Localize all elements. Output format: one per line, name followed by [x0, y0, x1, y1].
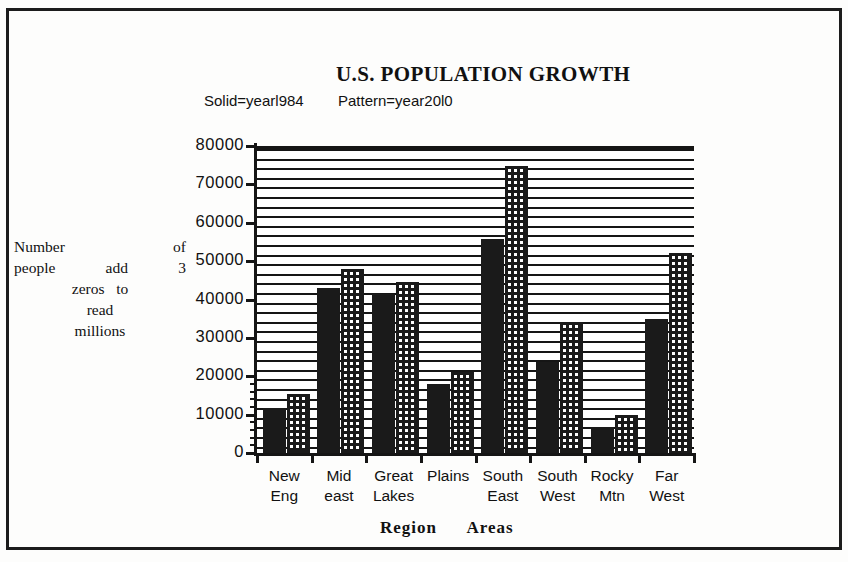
bar-pattern	[615, 415, 638, 453]
y-axis-tick	[246, 414, 257, 417]
y-axis-tick	[246, 260, 257, 263]
bar-solid	[481, 239, 504, 453]
bar-pattern	[341, 269, 364, 453]
bar-pattern	[287, 394, 310, 453]
chart-title: U.S. POPULATION GROWTH	[336, 62, 736, 87]
y-axis-tick	[246, 337, 257, 340]
y-axis-minor-tick	[250, 383, 257, 385]
y-axis-title-word-add: add	[106, 257, 128, 278]
y-axis-minor-tick	[250, 444, 257, 446]
x-axis-category-label: GreatLakes	[366, 466, 421, 506]
category-label-line-2: Mtn	[585, 486, 640, 506]
y-axis-title-word-to: to	[116, 280, 128, 297]
y-axis-tick-label: 20000	[172, 365, 244, 384]
bar-pattern	[396, 282, 419, 453]
category-label-line-1: Plains	[421, 466, 476, 486]
x-axis-category-label: RockyMtn	[585, 466, 640, 506]
y-axis-tick-label: 0	[172, 442, 244, 461]
category-label-line-1: Rocky	[585, 466, 640, 486]
x-axis-category-label: Plains	[421, 466, 476, 486]
x-axis-category-label: NewEng	[257, 466, 312, 506]
y-axis-title-word-number: Number	[14, 236, 65, 257]
x-axis-tick	[693, 453, 696, 463]
category-label-line-1: South	[530, 466, 585, 486]
x-axis-tick	[420, 453, 423, 463]
x-axis-tick	[256, 453, 259, 463]
bar-chart: U.S. POPULATION GROWTH Solid=yearl984 Pa…	[0, 0, 848, 562]
x-axis-category-label: SouthWest	[530, 466, 585, 506]
y-axis-title: Number of people add 3 zeros to read mil…	[14, 236, 186, 341]
y-axis-minor-tick	[250, 437, 257, 439]
x-axis-tick	[475, 453, 478, 463]
y-axis-tick	[246, 145, 257, 148]
y-axis-title-line-5: millions	[14, 320, 186, 341]
category-label-line-1: Mid	[312, 466, 367, 486]
x-axis-title: Region Areas	[380, 518, 514, 538]
y-axis-tick	[246, 299, 257, 302]
y-axis-tick-label: 50000	[172, 250, 244, 269]
x-axis-tick	[311, 453, 314, 463]
y-axis-title-line-2: people add 3	[14, 257, 186, 278]
y-axis-tick	[246, 183, 257, 186]
y-axis-title-line-3: zeros to	[14, 278, 186, 299]
bar-pattern	[669, 253, 692, 453]
bar-pattern	[451, 372, 474, 453]
y-axis-title-word-people: people	[14, 257, 55, 278]
bar-solid	[591, 427, 614, 453]
bar-solid	[263, 408, 286, 453]
y-axis-tick-labels: 0100002000030000400005000060000700008000…	[168, 0, 244, 562]
x-axis-tick	[638, 453, 641, 463]
x-axis-category-label: SouthEast	[476, 466, 531, 506]
scanned-page: U.S. POPULATION GROWTH Solid=yearl984 Pa…	[0, 0, 848, 562]
x-axis-category-labels: NewEngMideastGreatLakesPlainsSouthEastSo…	[257, 466, 694, 514]
category-label-line-2: East	[476, 486, 531, 506]
y-axis-tick-label: 40000	[172, 289, 244, 308]
bar-pattern	[505, 166, 528, 453]
category-label-line-1: South	[476, 466, 531, 486]
y-axis-tick-label: 80000	[172, 135, 244, 154]
y-axis-tick-label: 30000	[172, 327, 244, 346]
y-axis-tick-label: 70000	[172, 173, 244, 192]
bar-solid	[372, 294, 395, 453]
bar-solid	[427, 384, 450, 453]
y-axis-tick	[246, 375, 257, 378]
x-axis-category-label: FarWest	[639, 466, 694, 506]
bar-solid	[317, 288, 340, 453]
category-label-line-2: West	[639, 486, 694, 506]
x-axis-category-label: Mideast	[312, 466, 367, 506]
y-axis-minor-tick	[250, 398, 257, 400]
y-axis-tick-label: 60000	[172, 212, 244, 231]
y-axis-minor-tick	[250, 391, 257, 393]
y-axis-minor-tick	[250, 406, 257, 408]
x-axis-tick	[365, 453, 368, 463]
legend-pattern-label: Pattern=year20l0	[338, 92, 453, 109]
category-label-line-2: Lakes	[366, 486, 421, 506]
category-label-line-2: east	[312, 486, 367, 506]
category-label-line-2: West	[530, 486, 585, 506]
category-label-line-1: Great	[366, 466, 421, 486]
category-label-line-2: Eng	[257, 486, 312, 506]
y-axis-title-word-zeros: zeros	[72, 280, 105, 297]
category-label-line-1: Far	[639, 466, 694, 486]
x-axis-title-word-region: Region	[380, 518, 437, 537]
bar-solid	[645, 319, 668, 453]
category-label-line-1: New	[257, 466, 312, 486]
y-axis-title-line-1: Number of	[14, 236, 186, 257]
y-axis-tick-label: 10000	[172, 404, 244, 423]
x-axis-title-word-areas: Areas	[467, 518, 514, 537]
y-axis-tick	[246, 222, 257, 225]
bar-solid	[536, 362, 559, 453]
x-axis-tick	[584, 453, 587, 463]
bar-pattern	[560, 322, 583, 453]
x-axis-tick	[529, 453, 532, 463]
bar-series-group	[257, 146, 694, 453]
y-axis-title-line-4: read	[14, 299, 186, 320]
y-axis-minor-tick	[250, 421, 257, 423]
y-axis-minor-tick	[250, 429, 257, 431]
